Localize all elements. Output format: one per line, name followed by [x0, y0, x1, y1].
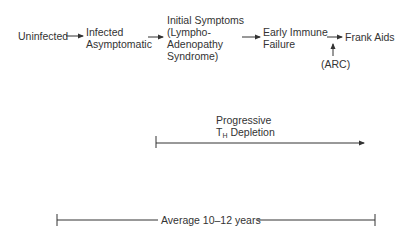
stage-line: Syndrome): [167, 50, 244, 62]
stage-frank-aids: Frank Aids: [345, 31, 395, 43]
stage-initial-symptoms: Initial Symptoms (Lympho- Adenopathy Syn…: [167, 14, 244, 62]
depletion-label: Progressive TH Depletion: [216, 114, 275, 142]
depletion-rest: Depletion: [227, 126, 274, 138]
stage-line: Infected: [86, 26, 152, 38]
duration-label: Average 10–12 years: [161, 214, 261, 226]
stage-uninfected: Uninfected: [18, 30, 68, 42]
arc-label: (ARC): [321, 58, 350, 70]
stage-line: Adenopathy: [167, 38, 244, 50]
stage-infected-asymptomatic: Infected Asymptomatic: [86, 26, 152, 50]
stage-line: Frank Aids: [345, 31, 395, 43]
stage-line: Uninfected: [18, 30, 68, 42]
stage-line: Early Immune: [263, 26, 328, 38]
stage-line: Failure: [263, 38, 328, 50]
stage-line: Asymptomatic: [86, 38, 152, 50]
stage-line: Initial Symptoms: [167, 14, 244, 26]
depletion-line1: Progressive: [216, 114, 275, 126]
stage-early-immune-failure: Early Immune Failure: [263, 26, 328, 50]
stage-line: (Lympho-: [167, 26, 244, 38]
depletion-line2: TH Depletion: [216, 126, 275, 142]
